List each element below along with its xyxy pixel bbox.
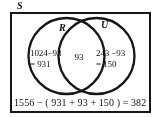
region-intersection: 93: [70, 52, 88, 63]
venn-diagram-figure: S R U 1024−93 = 931 93 243 −93 = 150 155…: [0, 0, 160, 117]
region-r-line-1: 1024−93: [30, 48, 61, 59]
region-r-only: 1024−93 = 931: [30, 48, 61, 70]
region-u-line-1: 243 −93: [96, 48, 125, 59]
region-r-line-2: = 931: [30, 59, 61, 70]
summary-equation: 1556 − ( 931 + 93 + 150 ) = 382: [14, 96, 146, 109]
set-label-r: R: [59, 22, 66, 33]
region-u-line-2: = 150: [96, 59, 125, 70]
region-u-only: 243 −93 = 150: [96, 48, 125, 70]
set-label-u: U: [101, 19, 108, 30]
